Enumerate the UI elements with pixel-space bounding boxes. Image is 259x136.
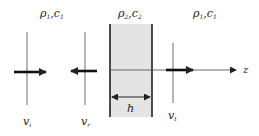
- incident-label: vi: [23, 115, 31, 128]
- medium-left-label: ρ1,c1: [39, 7, 64, 20]
- medium-right-label: ρ1,c1: [192, 7, 217, 20]
- transmitted-label: vt: [168, 109, 177, 122]
- diagram-canvas: ρ1,c1 ρ2,c2 ρ1,c1 vi vr vt h z: [0, 0, 259, 136]
- reflected-label: vr: [81, 115, 91, 128]
- thickness-label: h: [127, 102, 134, 115]
- z-axis-label: z: [242, 64, 249, 75]
- medium-slab-label: ρ2,c2: [117, 7, 142, 20]
